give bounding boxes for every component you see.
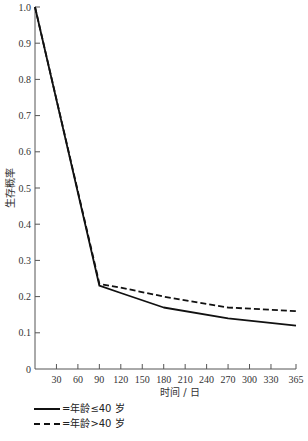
- svg-text:0.3: 0.3: [19, 255, 32, 266]
- series-lines: [35, 7, 296, 326]
- y-axis-ticks: 00.10.20.30.40.50.60.70.80.91.0: [19, 2, 41, 375]
- svg-text:30: 30: [51, 374, 61, 385]
- svg-text:0.4: 0.4: [19, 219, 32, 230]
- x-axis-ticks: 306090120150180210240270300330365: [51, 364, 303, 385]
- svg-text:60: 60: [73, 374, 83, 385]
- svg-text:240: 240: [199, 374, 214, 385]
- svg-text:0.2: 0.2: [19, 291, 32, 302]
- svg-text:0.7: 0.7: [19, 110, 32, 121]
- survival-chart: 00.10.20.30.40.50.60.70.80.91.0 30609012…: [0, 0, 308, 400]
- svg-text:330: 330: [263, 374, 278, 385]
- svg-text:0.1: 0.1: [19, 327, 32, 338]
- legend-item-old: =年龄>40 岁: [34, 416, 125, 431]
- legend: =年龄≤40 岁 =年龄>40 岁: [34, 401, 125, 431]
- svg-text:120: 120: [113, 374, 128, 385]
- legend-item-young: =年龄≤40 岁: [34, 401, 125, 416]
- legend-label: =年龄≤40 岁: [62, 401, 125, 416]
- y-axis-title: 生存概率: [4, 168, 16, 208]
- svg-text:150: 150: [135, 374, 150, 385]
- svg-text:270: 270: [221, 374, 236, 385]
- svg-text:0.6: 0.6: [19, 146, 32, 157]
- solid-line-icon: [34, 408, 60, 410]
- svg-text:300: 300: [242, 374, 257, 385]
- svg-text:0: 0: [26, 364, 31, 375]
- series-line-over-40: [35, 7, 296, 311]
- dashed-line-icon: [34, 423, 60, 425]
- series-line-under-40: [35, 7, 296, 326]
- legend-label: =年龄>40 岁: [62, 416, 125, 431]
- svg-text:210: 210: [178, 374, 193, 385]
- svg-text:365: 365: [289, 374, 304, 385]
- svg-text:90: 90: [94, 374, 104, 385]
- x-axis-title: 时间 / 日: [160, 386, 200, 398]
- axes: [35, 7, 296, 369]
- svg-text:0.8: 0.8: [19, 74, 32, 85]
- svg-text:1.0: 1.0: [19, 2, 32, 13]
- svg-text:180: 180: [156, 374, 171, 385]
- svg-text:0.5: 0.5: [19, 183, 32, 194]
- svg-text:0.9: 0.9: [19, 38, 32, 49]
